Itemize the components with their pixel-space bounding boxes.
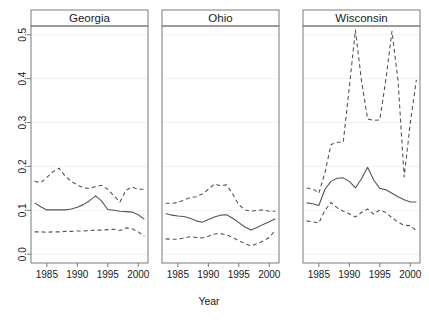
x-tick-label: 1995 (97, 269, 120, 280)
x-axis-title: Year (198, 295, 220, 307)
y-tick-label: 0.5 (17, 27, 28, 41)
x-tick-label: 1995 (369, 269, 392, 280)
x-tick-label: 1990 (66, 269, 89, 280)
y-tick-label: 0.3 (17, 115, 28, 129)
y-tick-label: 0.4 (17, 71, 28, 85)
x-tick-label: 1990 (338, 269, 361, 280)
panel-title: Wisconsin (335, 12, 387, 24)
chart-figure: Georgia1985199019952000Ohio1985199019952… (0, 0, 429, 323)
x-tick-label: 1995 (228, 269, 251, 280)
x-tick-label: 1985 (308, 269, 331, 280)
trellis-line-chart: Georgia1985199019952000Ohio1985199019952… (0, 0, 429, 323)
x-tick-label: 2000 (127, 269, 150, 280)
x-tick-label: 1985 (36, 269, 59, 280)
x-tick-label: 2000 (258, 269, 281, 280)
panel-title: Ohio (208, 12, 232, 24)
y-tick-label: 0.1 (17, 203, 28, 217)
x-tick-label: 2000 (399, 269, 422, 280)
x-tick-label: 1985 (167, 269, 190, 280)
y-tick-label: 0.2 (17, 159, 28, 173)
panel-title: Georgia (69, 12, 111, 24)
y-tick-label: 0.0 (17, 247, 28, 261)
x-tick-label: 1990 (197, 269, 220, 280)
